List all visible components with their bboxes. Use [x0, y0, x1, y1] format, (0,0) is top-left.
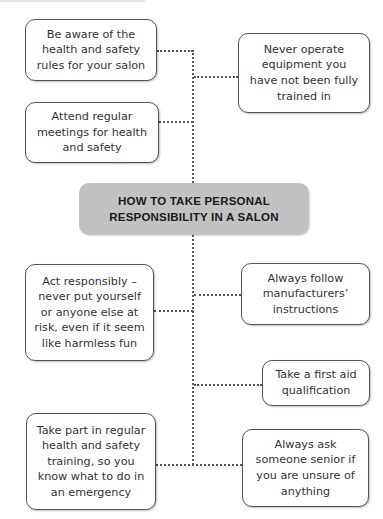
node-text: Act responsibly – never put yourself or … [34, 274, 144, 352]
node-text: Always follow manufacturers’ instruction… [263, 271, 349, 318]
central-topic-title: HOW TO TAKE PERSONAL RESPONSIBILITY IN A… [109, 193, 278, 225]
connector-spine-lower [192, 235, 194, 465]
node-attend-meetings: Attend regular meetings for health and s… [25, 102, 159, 163]
node-training: Take part in regular health and safety t… [26, 413, 156, 510]
connector-aware-rules [157, 50, 193, 52]
connector-attend-meetings [159, 121, 193, 123]
node-ask-senior: Always ask someone senior if you are uns… [242, 429, 369, 507]
node-aware-rules: Be aware of the health and safety rules … [25, 19, 157, 81]
node-text: Always ask someone senior if you are uns… [256, 437, 356, 499]
node-text: Take part in regular health and safety t… [37, 423, 146, 501]
connector-never-operate [194, 76, 238, 78]
node-text: Be aware of the health and safety rules … [37, 27, 145, 74]
node-text: Never operate equipment you have not bee… [250, 42, 358, 104]
node-text: Take a first aid qualification [275, 367, 356, 398]
connector-first-aid [194, 384, 262, 386]
connector-spine-upper [192, 50, 194, 183]
node-never-operate: Never operate equipment you have not bee… [238, 33, 370, 113]
top-edge-bar [0, 0, 145, 2]
central-topic: HOW TO TAKE PERSONAL RESPONSIBILITY IN A… [79, 183, 309, 235]
connector-act-responsibly [154, 310, 193, 312]
node-text: Attend regular meetings for health and s… [37, 109, 147, 156]
node-first-aid: Take a first aid qualification [262, 360, 370, 406]
connector-follow-instructions [194, 294, 241, 296]
node-act-responsibly: Act responsibly – never put yourself or … [25, 264, 154, 361]
node-follow-instructions: Always follow manufacturers’ instruction… [241, 263, 370, 325]
connector-training-ask-senior [156, 464, 242, 466]
